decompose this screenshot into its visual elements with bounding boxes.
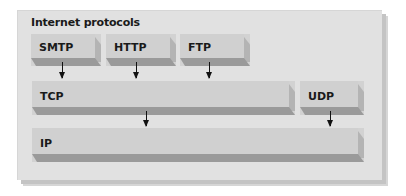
arrow-ftp-to-tcp: [209, 62, 210, 78]
tcp-box: TCP: [32, 81, 295, 115]
udp-label: UDP: [308, 90, 334, 103]
arrow-tcp-to-ip: [146, 111, 147, 126]
smtp-label: SMTP: [39, 41, 73, 54]
arrow-http-to-tcp: [136, 62, 137, 78]
arrow-udp-to-ip: [330, 111, 331, 126]
ip-box: IP: [32, 128, 364, 162]
udp-box: UDP: [300, 81, 364, 115]
ftp-box: FTP: [180, 34, 250, 66]
smtp-box: SMTP: [31, 34, 101, 66]
arrow-smtp-to-tcp: [62, 62, 63, 78]
http-box: HTTP: [106, 34, 176, 66]
tcp-label: TCP: [40, 90, 64, 103]
ip-label: IP: [40, 137, 52, 150]
ftp-label: FTP: [188, 41, 211, 54]
diagram-title: Internet protocols: [31, 16, 140, 29]
http-label: HTTP: [114, 41, 147, 54]
